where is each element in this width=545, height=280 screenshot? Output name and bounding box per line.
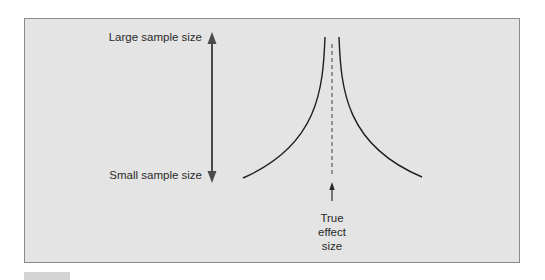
funnel-diagram — [0, 0, 545, 280]
arrow-down-icon — [208, 171, 217, 183]
true-effect-pointer-arrow — [329, 182, 334, 201]
funnel-right-curve — [339, 37, 422, 177]
sample-size-axis-arrow — [208, 32, 217, 183]
true-effect-label: True effect size — [312, 211, 352, 253]
true-effect-label-line3: size — [312, 239, 352, 253]
arrow-up-small-icon — [329, 182, 334, 190]
small-sample-label: Small sample size — [109, 169, 202, 181]
large-sample-label: Large sample size — [109, 31, 202, 43]
funnel-left-curve — [243, 37, 325, 178]
true-effect-label-line2: effect — [312, 225, 352, 239]
true-effect-label-line1: True — [312, 211, 352, 225]
arrow-up-icon — [208, 32, 217, 44]
